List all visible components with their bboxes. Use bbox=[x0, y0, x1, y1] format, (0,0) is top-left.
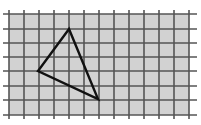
grid-diagram bbox=[0, 0, 201, 125]
